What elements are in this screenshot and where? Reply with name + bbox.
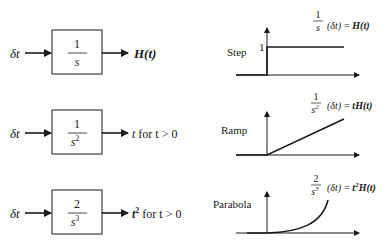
parabola-label: Parabola (213, 198, 252, 210)
block-1-output: H(t) (133, 46, 156, 61)
block-2-numerator: 1 (74, 117, 80, 131)
ramp-label: Ramp (221, 124, 248, 136)
svg-text:s3: s3 (311, 185, 319, 197)
parabola-curve (247, 200, 328, 233)
step-curve (236, 47, 344, 75)
svg-text:(δt) =t2H(t): (δt) =t2H(t) (327, 181, 376, 194)
block-2-input-label: δt (10, 126, 20, 141)
block-3-output: t2 for t > 0 (132, 206, 181, 221)
impulse-response-diagram: δt 1 s H(t) δt 1 s2 t for t > 0 δt 2 s3 … (0, 0, 387, 249)
svg-text:1: 1 (316, 9, 321, 20)
step-formula: 1 s (δt) =H(t) (313, 9, 370, 33)
block-1-denominator: s (75, 55, 80, 69)
ramp-formula: 1 s2 (δt) =tH(t) (311, 91, 372, 115)
ramp-curve (236, 119, 344, 155)
step-level-tick: 1 (259, 41, 265, 53)
block-3-input-label: δt (10, 206, 20, 221)
block-3-numerator: 2 (74, 197, 80, 211)
block-1-numerator: 1 (74, 37, 80, 51)
block-1-input-label: δt (10, 46, 20, 61)
parabola-formula: 2 s3 (δt) =t2H(t) (311, 173, 376, 197)
step-graph: Step 1 1 s (δt) =H(t) (227, 9, 370, 75)
svg-text:s: s (316, 22, 320, 33)
block-integrator-2: δt 1 s2 t for t > 0 (10, 110, 177, 154)
svg-text:1: 1 (314, 91, 319, 102)
svg-text:2: 2 (314, 173, 319, 184)
parabola-graph: Parabola 2 s3 (δt) =t2H(t) (213, 173, 376, 233)
svg-text:(δt) =H(t): (δt) =H(t) (327, 20, 370, 32)
block-integrator-3: δt 2 s3 t2 for t > 0 (10, 190, 181, 234)
svg-text:(δt) =tH(t): (δt) =tH(t) (327, 100, 372, 112)
svg-text:s2: s2 (311, 103, 319, 115)
ramp-graph: Ramp 1 s2 (δt) =tH(t) (221, 91, 372, 155)
block-integrator-1: δt 1 s H(t) (10, 30, 156, 74)
step-label: Step (227, 46, 247, 58)
block-2-output: t for t > 0 (132, 127, 177, 141)
